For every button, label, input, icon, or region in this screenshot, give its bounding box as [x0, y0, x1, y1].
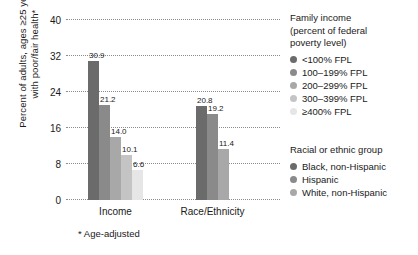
legend-racial-ethnic-group-item[interactable]: Hispanic: [290, 173, 387, 186]
legend-swatch-icon: [290, 95, 297, 102]
y-axis-tick-label: 24: [50, 87, 61, 98]
y-axis-title-line-1: Percent of adults, ages ≥25 years,: [17, 0, 29, 149]
legend-family-income-item-label: <100% FPL: [302, 54, 352, 65]
bar-value-label: 21.2: [100, 95, 116, 104]
bar-value-label: 30.9: [89, 51, 105, 60]
legend-swatch-icon: [290, 189, 297, 196]
x-axis-group-label: Race/Ethnicity: [181, 206, 245, 217]
legend-racial-ethnic-group: Racial or ethnic group Black, non-Hispan…: [290, 144, 387, 199]
bar: [121, 155, 132, 200]
legend-family-income-item-label: ≥400% FPL: [302, 106, 352, 117]
legend-family-income-item-label: 100–199% FPL: [302, 67, 368, 78]
legend-racial-ethnic-group-item-label: Hispanic: [302, 174, 338, 185]
bar: [110, 137, 121, 200]
legend-family-income-item[interactable]: 300–399% FPL: [290, 92, 368, 105]
y-axis-title-line-2: with poor/fair health*: [29, 0, 41, 149]
chart-figure: Percent of adults, ages ≥25 years, with …: [0, 0, 418, 255]
y-axis-tick-label: 8: [55, 159, 61, 170]
legend-racial-ethnic-group-items: Black, non-HispanicHispanicWhite, non-Hi…: [290, 160, 387, 199]
legend-racial-ethnic-group-item-label: Black, non-Hispanic: [302, 161, 386, 172]
legend-swatch-icon: [290, 69, 297, 76]
legend-racial-ethnic-group-item-label: White, non-Hispanic: [302, 187, 387, 198]
y-axis-tick-label: 32: [50, 51, 61, 62]
bar-value-label: 14.0: [111, 127, 127, 136]
legend-racial-ethnic-group-title: Racial or ethnic group: [290, 144, 387, 157]
x-axis-group-label: Income: [99, 206, 132, 217]
legend-racial-ethnic-group-item[interactable]: Black, non-Hispanic: [290, 160, 387, 173]
legend-family-income-item[interactable]: <100% FPL: [290, 53, 368, 66]
legend-swatch-icon: [290, 176, 297, 183]
bar: [99, 105, 110, 200]
legend-family-income-title: Family income(percent of federalpoverty …: [290, 12, 368, 50]
y-axis-tick-label: 40: [50, 15, 61, 26]
bar: [196, 106, 207, 200]
legend-family-income-title-line: Family income: [290, 12, 368, 25]
plot-area: 0816243240 30.921.214.010.16.620.819.211…: [66, 20, 280, 200]
footnote: * Age-adjusted: [78, 228, 140, 239]
legend-family-income-items: <100% FPL100–199% FPL200–299% FPL300–399…: [290, 53, 368, 118]
legend-racial-ethnic-group-item[interactable]: White, non-Hispanic: [290, 186, 387, 199]
bar-value-label: 6.6: [133, 160, 144, 169]
y-axis-title: Percent of adults, ages ≥25 years, with …: [17, 0, 41, 149]
legend-family-income-title-line: (percent of federal: [290, 25, 368, 38]
legend-family-income-title-line: poverty level): [290, 37, 368, 50]
legend-swatch-icon: [290, 163, 297, 170]
legend-family-income-item[interactable]: 200–299% FPL: [290, 79, 368, 92]
bar-value-label: 19.2: [208, 104, 224, 113]
legend-swatch-icon: [290, 56, 297, 63]
legend-swatch-icon: [290, 82, 297, 89]
bar: [207, 114, 218, 200]
legend-family-income-item-label: 200–299% FPL: [302, 80, 368, 91]
legend-racial-ethnic-group-title-line: Racial or ethnic group: [290, 144, 387, 157]
legend-family-income-item[interactable]: ≥400% FPL: [290, 105, 368, 118]
gridline: 40: [66, 19, 280, 20]
bar-value-label: 11.4: [219, 139, 234, 148]
legend-swatch-icon: [290, 108, 297, 115]
bar-value-label: 10.1: [122, 145, 138, 154]
bar: [132, 170, 143, 200]
legend-family-income: Family income(percent of federalpoverty …: [290, 12, 368, 118]
y-axis-tick-label: 0: [55, 195, 61, 206]
bar: [88, 61, 99, 200]
legend-family-income-item-label: 300–399% FPL: [302, 93, 368, 104]
y-axis-tick-label: 16: [50, 123, 61, 134]
legend-family-income-item[interactable]: 100–199% FPL: [290, 66, 368, 79]
bar: [218, 149, 229, 200]
